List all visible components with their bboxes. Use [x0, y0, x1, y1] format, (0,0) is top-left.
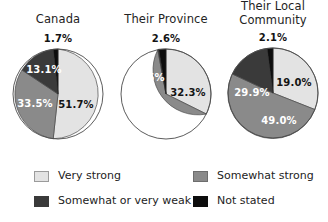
pie-panel-local-community: Their Local Community 2.1% 19.0% 49.	[219, 0, 327, 160]
pie-title-canada: Canada	[4, 13, 112, 27]
legend-swatch-very-strong	[34, 171, 49, 182]
pie-label-local-not-stated: 2.1%	[219, 32, 327, 43]
pie-title-local-community: Their Local Community	[219, 0, 327, 27]
cropped-caption-bleed	[0, 217, 328, 222]
legend-label-somewhat-strong: Somewhat strong	[217, 170, 314, 182]
pie-local-community: 19.0% 49.0% 29.9%	[227, 47, 319, 139]
pie-label-canada-somewhat-strong: 33.5%	[17, 98, 53, 109]
pie-label-local-somewhat-strong: 49.0%	[261, 115, 297, 126]
pie-title-province: Their Province	[112, 13, 220, 27]
legend-item-not-stated: Not stated	[193, 193, 275, 209]
pie-label-local-very-strong: 19.0%	[276, 77, 312, 88]
pie-label-local-weak: 29.9%	[234, 87, 270, 98]
pie-label-province-weak: 19.5%	[129, 72, 165, 83]
legend-item-somewhat-strong: Somewhat strong	[193, 168, 314, 184]
legend-item-weak: Somewhat or very weak	[34, 193, 191, 209]
pie-label-canada-weak: 13.1%	[26, 64, 62, 75]
pie-chart-figure: Canada 1.7% 51.7% 33.5% 13.1%	[0, 0, 328, 222]
pie-label-province-very-strong: 32.3%	[170, 87, 206, 98]
pie-title-local-line1: Their Local	[219, 0, 327, 14]
pie-canada-slice-very-strong	[53, 49, 98, 139]
pie-label-canada-very-strong: 51.7%	[58, 99, 94, 110]
legend-label-not-stated: Not stated	[217, 195, 275, 207]
legend-swatch-somewhat-strong	[193, 171, 208, 182]
pie-panel-canada: Canada 1.7% 51.7% 33.5% 13.1%	[4, 0, 112, 160]
legend-item-very-strong: Very strong	[34, 168, 121, 184]
chart-legend: Very strong Somewhat strong Somewhat or …	[0, 164, 328, 216]
legend-label-very-strong: Very strong	[58, 170, 121, 182]
pie-title-local-line2: Community	[219, 14, 327, 28]
legend-label-weak: Somewhat or very weak	[58, 195, 191, 207]
legend-swatch-weak	[34, 196, 49, 207]
pie-canada: 51.7% 33.5% 13.1%	[12, 48, 104, 140]
pie-label-province-not-stated: 2.6%	[112, 33, 220, 44]
legend-swatch-not-stated	[193, 196, 208, 207]
pie-panel-province: Their Province 2.6% 32.3% 45.6% 19.5%	[112, 0, 220, 160]
pie-province: 32.3% 45.6% 19.5%	[120, 48, 212, 140]
pie-chart-row: Canada 1.7% 51.7% 33.5% 13.1%	[0, 0, 328, 160]
pie-label-province-somewhat-strong: 45.6%	[144, 119, 180, 130]
pie-label-canada-not-stated: 1.7%	[4, 33, 112, 44]
pie-canada-svg	[12, 48, 104, 140]
